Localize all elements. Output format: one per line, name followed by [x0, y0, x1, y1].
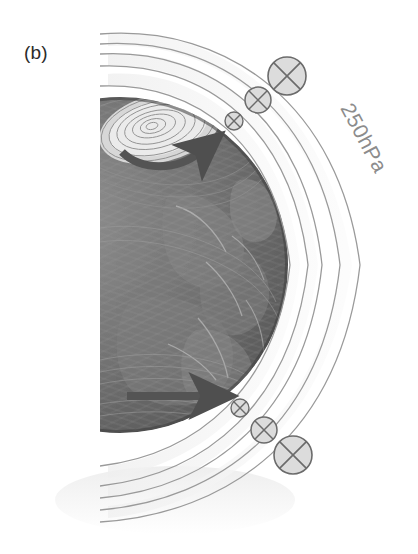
circle-cross-icon — [225, 112, 243, 130]
circle-cross-icon — [274, 436, 312, 474]
circle-cross-icon — [231, 399, 249, 417]
figure-graphic: 250hPa — [0, 0, 418, 554]
figure-panel-b: (b) — [0, 0, 418, 554]
pressure-level-label: 250hPa — [336, 99, 392, 176]
circle-cross-icon — [245, 87, 271, 113]
circle-cross-icon — [251, 417, 277, 443]
circle-cross-icon — [268, 57, 306, 95]
